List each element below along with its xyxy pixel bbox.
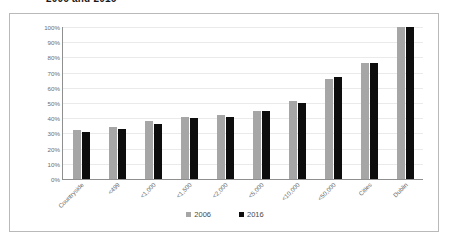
x-axis-tick: Countryside [62, 180, 98, 214]
x-axis-tick-label: Dublin [392, 181, 409, 198]
x-axis-tick: <5,000 [242, 180, 278, 214]
legend-item[interactable]: 2016 [239, 210, 264, 219]
chart-plot-wrapper: 100%90%80%70%60%50%40%30%20%10%0% Countr… [10, 14, 440, 233]
bar-2006[interactable] [217, 115, 225, 179]
y-axis-tick-label: 20% [22, 145, 60, 152]
y-axis-tick-label: 90% [22, 39, 60, 46]
bar-2016[interactable] [190, 118, 198, 179]
bar-group [351, 27, 387, 179]
bar-2006[interactable] [361, 63, 369, 179]
x-axis-tick: <1,000 [134, 180, 170, 214]
bar-2006[interactable] [181, 117, 189, 179]
bar-group [243, 27, 279, 179]
chart-title-clip: 2006 and 2016 [0, 0, 449, 9]
bar-2016[interactable] [118, 129, 126, 179]
chart-legend: 20062016 [10, 210, 440, 219]
bar-2006[interactable] [253, 111, 261, 179]
x-axis-tick: <1,500 [170, 180, 206, 214]
x-axis-tick-label: <1,000 [138, 181, 156, 199]
x-axis-tick: <50,000 [314, 180, 350, 214]
bar-group [135, 27, 171, 179]
y-axis-tick-label: 80% [22, 54, 60, 61]
x-axis-tick: <2,000 [206, 180, 242, 214]
x-axis-tick: <499 [98, 180, 134, 214]
bar-2016[interactable] [226, 117, 234, 179]
x-axis-tick-label: <50,000 [316, 181, 337, 202]
bar-group [387, 27, 423, 179]
x-axis-tick-label: <2,000 [210, 181, 228, 199]
bar-2016[interactable] [370, 63, 378, 179]
x-axis-tick: Dublin [386, 180, 422, 214]
y-axis-tick-label: 40% [22, 115, 60, 122]
bar-group [99, 27, 135, 179]
bar-2016[interactable] [406, 27, 414, 179]
x-axis-tick-label: <499 [106, 181, 121, 196]
legend-swatch-icon [239, 212, 244, 217]
x-axis-tick-label: Countryside [57, 181, 85, 209]
x-axis: Countryside<499<1,000<1,500<2,000<5,000<… [62, 180, 422, 214]
bar-2006[interactable] [289, 101, 297, 179]
bar-group [171, 27, 207, 179]
y-axis-tick-label: 10% [22, 160, 60, 167]
y-axis-tick-label: 50% [22, 100, 60, 107]
y-axis-tick-label: 0% [22, 176, 60, 183]
y-axis-tick-label: 30% [22, 130, 60, 137]
plot-area [62, 27, 423, 180]
chart-title: 2006 and 2016 [46, 0, 116, 4]
x-axis-tick-label: Cities [357, 181, 373, 197]
legend-label: 2016 [247, 210, 264, 219]
y-axis: 100%90%80%70%60%50%40%30%20%10%0% [22, 27, 60, 179]
bar-2016[interactable] [334, 77, 342, 179]
bar-2006[interactable] [325, 79, 333, 179]
bar-2006[interactable] [73, 130, 81, 179]
chart-frame: 100%90%80%70%60%50%40%30%20%10%0% Countr… [9, 13, 439, 232]
x-axis-tick: <10,000 [278, 180, 314, 214]
y-axis-tick-label: 100% [22, 24, 60, 31]
bar-group [279, 27, 315, 179]
legend-swatch-icon [186, 212, 191, 217]
x-axis-tick-label: <1,500 [174, 181, 192, 199]
bar-2016[interactable] [82, 132, 90, 179]
bar-2006[interactable] [145, 121, 153, 179]
y-axis-tick-label: 60% [22, 84, 60, 91]
legend-label: 2006 [194, 210, 211, 219]
bar-2016[interactable] [154, 124, 162, 179]
bar-group [63, 27, 99, 179]
x-axis-tick-label: <10,000 [280, 181, 301, 202]
bar-2006[interactable] [397, 27, 405, 179]
x-axis-tick: Cities [350, 180, 386, 214]
x-axis-tick-label: <5,000 [246, 181, 264, 199]
bar-2016[interactable] [262, 111, 270, 179]
bars-layer [63, 27, 423, 179]
y-axis-tick-label: 70% [22, 69, 60, 76]
bar-2016[interactable] [298, 103, 306, 179]
legend-item[interactable]: 2006 [186, 210, 211, 219]
bar-2006[interactable] [109, 127, 117, 179]
bar-group [207, 27, 243, 179]
bar-group [315, 27, 351, 179]
